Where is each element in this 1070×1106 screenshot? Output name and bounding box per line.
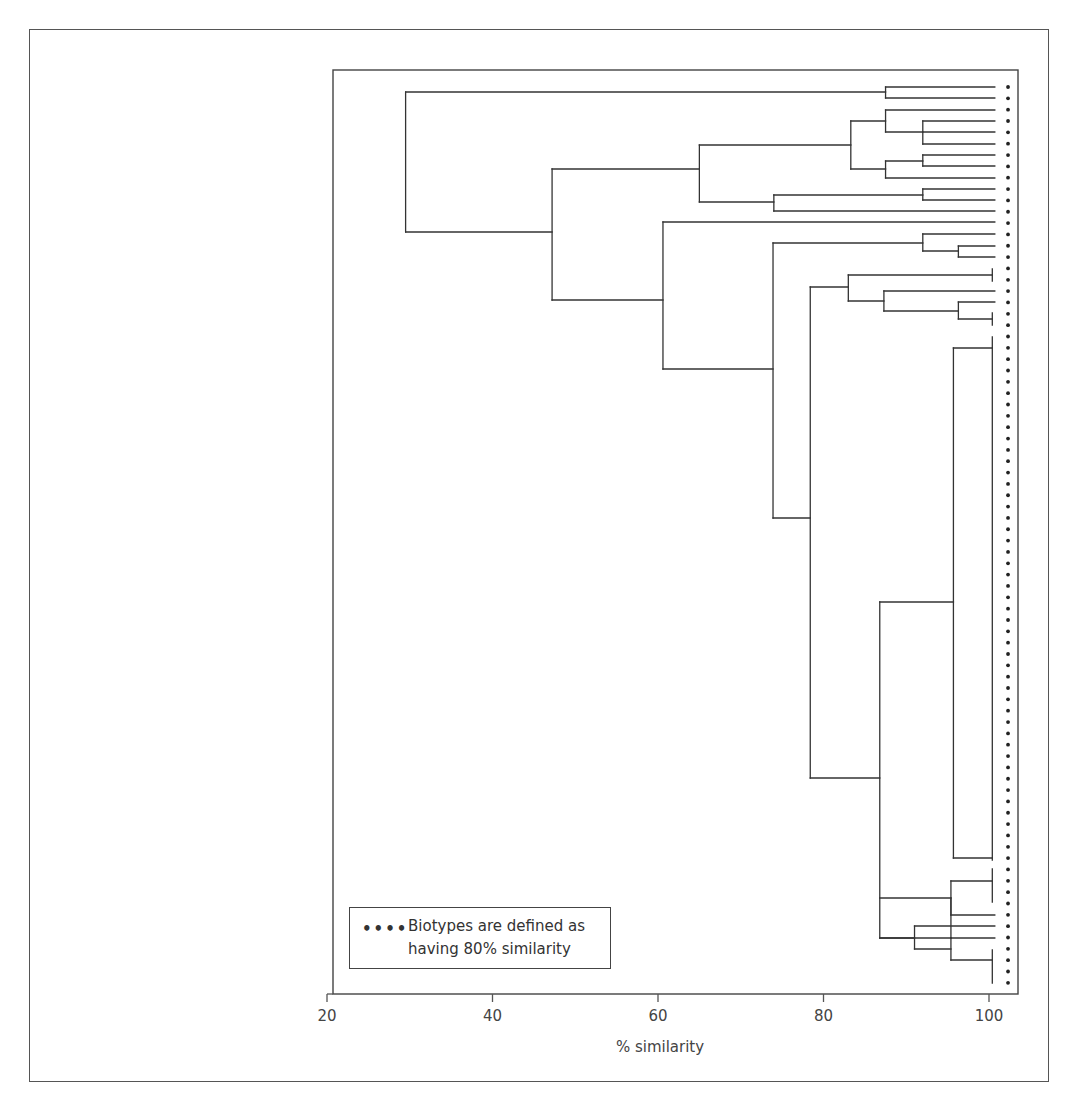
x-tick-label: 20 (317, 1007, 336, 1025)
threshold-dot (1006, 335, 1010, 339)
threshold-dot (1006, 493, 1010, 497)
threshold-dot (1006, 391, 1010, 395)
threshold-dot (1006, 85, 1010, 89)
threshold-dot (1006, 267, 1010, 271)
threshold-dot (1006, 879, 1010, 883)
threshold-dot (1006, 856, 1010, 860)
x-tick-label: 80 (814, 1007, 833, 1025)
threshold-dot (1006, 108, 1010, 112)
threshold-dot (1006, 210, 1010, 214)
threshold-dot (1006, 233, 1010, 237)
threshold-dot (1006, 505, 1010, 509)
threshold-dot (1006, 663, 1010, 667)
x-tick-label: 100 (975, 1007, 1004, 1025)
threshold-dot (1006, 811, 1010, 815)
threshold-dot (1006, 199, 1010, 203)
legend-text-line-2: having 80% similarity (408, 940, 571, 958)
plot-area-border (333, 70, 1018, 994)
threshold-dot (1006, 459, 1010, 463)
threshold-dot (1006, 119, 1010, 123)
threshold-dot (1006, 584, 1010, 588)
threshold-dot (1006, 153, 1010, 157)
threshold-dot (1006, 936, 1010, 940)
biotype-threshold-dots (1006, 85, 1010, 985)
threshold-dot (1006, 573, 1010, 577)
threshold-dot (1006, 142, 1010, 146)
threshold-dot (1006, 709, 1010, 713)
threshold-dot (1006, 357, 1010, 361)
threshold-dot (1006, 618, 1010, 622)
threshold-dot (1006, 539, 1010, 543)
threshold-dot (1006, 278, 1010, 282)
threshold-dot (1006, 312, 1010, 316)
threshold-dot (1006, 834, 1010, 838)
threshold-dot (1006, 675, 1010, 679)
threshold-dot (1006, 652, 1010, 656)
threshold-dot (1006, 448, 1010, 452)
threshold-dot (1006, 96, 1010, 100)
threshold-dot (1006, 913, 1010, 917)
threshold-dot (1006, 868, 1010, 872)
threshold-dot (1006, 800, 1010, 804)
threshold-dot (1006, 890, 1010, 894)
threshold-dot (1006, 947, 1010, 951)
threshold-dot (1006, 788, 1010, 792)
threshold-dot (1006, 380, 1010, 384)
threshold-dot (1006, 629, 1010, 633)
threshold-dot (1006, 516, 1010, 520)
threshold-dot (1006, 403, 1010, 407)
threshold-dot (1006, 550, 1010, 554)
threshold-dot (1006, 686, 1010, 690)
threshold-dot (1006, 970, 1010, 974)
threshold-dot (1006, 130, 1010, 134)
threshold-dot (1006, 607, 1010, 611)
threshold-dot (1006, 244, 1010, 248)
threshold-dot (1006, 924, 1010, 928)
threshold-dot (1006, 289, 1010, 293)
threshold-dot (1006, 731, 1010, 735)
legend-text-line-1: Biotypes are defined as (408, 917, 585, 935)
threshold-dot (1006, 561, 1010, 565)
threshold-dot (1006, 720, 1010, 724)
x-tick-label: 40 (483, 1007, 502, 1025)
x-tick-label: 60 (648, 1007, 667, 1025)
threshold-dot (1006, 437, 1010, 441)
x-axis-ticks: 20406080100 (317, 994, 1003, 1025)
threshold-dot (1006, 323, 1010, 327)
threshold-dot (1006, 369, 1010, 373)
threshold-dot (1006, 822, 1010, 826)
threshold-dot (1006, 221, 1010, 225)
threshold-dot (1006, 301, 1010, 305)
threshold-dot (1006, 595, 1010, 599)
threshold-dot (1006, 697, 1010, 701)
threshold-dot (1006, 754, 1010, 758)
threshold-dot (1006, 902, 1010, 906)
threshold-dot (1006, 482, 1010, 486)
threshold-dot (1006, 766, 1010, 770)
dendrogram-branches (406, 87, 995, 983)
threshold-dot (1006, 743, 1010, 747)
threshold-dot (1006, 527, 1010, 531)
threshold-dot (1006, 958, 1010, 962)
threshold-dot (1006, 176, 1010, 180)
legend-box: •••• Biotypes are defined as having 80% … (349, 907, 611, 969)
threshold-dot (1006, 981, 1010, 985)
threshold-dot (1006, 164, 1010, 168)
threshold-dot (1006, 187, 1010, 191)
threshold-dot (1006, 641, 1010, 645)
x-axis-title: % similarity (616, 1038, 704, 1056)
threshold-dot (1006, 346, 1010, 350)
legend-dotted-marker: •••• (362, 920, 408, 938)
threshold-dot (1006, 414, 1010, 418)
threshold-dot (1006, 255, 1010, 259)
threshold-dot (1006, 845, 1010, 849)
threshold-dot (1006, 471, 1010, 475)
threshold-dot (1006, 777, 1010, 781)
threshold-dot (1006, 425, 1010, 429)
